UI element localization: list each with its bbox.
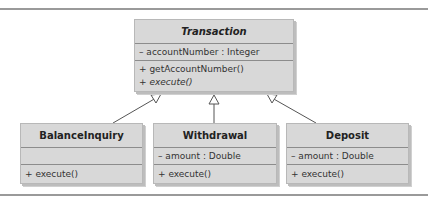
attribute: – accountNumber : Integer: [139, 46, 289, 59]
operations-compartment: + execute(): [287, 164, 408, 184]
operation: + getAccountNumber(): [139, 63, 289, 76]
abstract-operation: + execute(): [139, 76, 289, 89]
class-box-deposit[interactable]: Deposit – amount : Double + execute(): [286, 123, 409, 184]
hollow-triangle-arrowhead-icon: [151, 94, 161, 103]
class-name: BalanceInquiry: [21, 124, 142, 147]
operations-compartment: + execute(): [154, 164, 276, 184]
hollow-triangle-arrowhead-icon: [209, 95, 219, 104]
generalization-arrow-balanceinquiry: [113, 94, 161, 123]
generalization-arrow-deposit: [267, 94, 316, 123]
attributes-compartment: – accountNumber : Integer: [135, 43, 293, 60]
class-box-withdrawal[interactable]: Withdrawal – amount : Double + execute(): [153, 123, 277, 184]
operations-compartment: + getAccountNumber() + execute(): [135, 60, 293, 91]
attributes-compartment: – amount : Double: [154, 147, 276, 164]
hollow-triangle-arrowhead-icon: [267, 94, 277, 103]
attributes-compartment: – amount : Double: [287, 147, 408, 164]
class-name: Deposit: [287, 124, 408, 147]
top-rule: [0, 8, 428, 10]
attribute: – amount : Double: [158, 150, 272, 163]
attributes-compartment: [21, 147, 142, 164]
operations-compartment: + execute(): [21, 164, 142, 184]
class-box-balanceinquiry[interactable]: BalanceInquiry + execute(): [20, 123, 143, 184]
operation: + execute(): [25, 168, 138, 181]
operation: + execute(): [291, 168, 404, 181]
class-box-transaction[interactable]: Transaction – accountNumber : Integer + …: [134, 19, 294, 92]
bottom-rule: [0, 194, 428, 196]
class-name: Withdrawal: [154, 124, 276, 147]
class-name: Transaction: [135, 20, 293, 43]
generalization-arrow-withdrawal: [209, 95, 219, 123]
attribute: – amount : Double: [291, 150, 404, 163]
operation: + execute(): [158, 168, 272, 181]
